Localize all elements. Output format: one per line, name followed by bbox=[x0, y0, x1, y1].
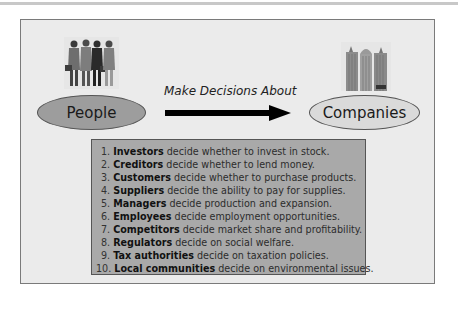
companies-label: Companies bbox=[323, 104, 407, 122]
list-item: 5. Managers decide production and expans… bbox=[101, 197, 365, 210]
list-item: 7. Competitors decide market share and p… bbox=[101, 223, 365, 236]
connector-label: Make Decisions About bbox=[164, 84, 297, 98]
top-rule bbox=[0, 2, 458, 5]
office-buildings-icon bbox=[341, 42, 391, 91]
list-item: 6. Employees decide employment opportuni… bbox=[101, 210, 365, 223]
right-arrow-icon bbox=[165, 105, 291, 121]
list-item: 8. Regulators decide on social welfare. bbox=[101, 236, 365, 249]
decisions-list: 1. Investors decide whether to invest in… bbox=[91, 139, 366, 275]
list-item: 9. Tax authorities decide on taxation po… bbox=[101, 249, 365, 262]
people-label: People bbox=[67, 104, 117, 122]
list-item: 10. Local communities decide on environm… bbox=[96, 262, 365, 275]
companies-node: Companies bbox=[309, 95, 420, 130]
list-item: 2. Creditors decide whether to lend mone… bbox=[101, 158, 365, 171]
people-node: People bbox=[37, 95, 146, 130]
group-of-businesspeople-icon bbox=[64, 37, 119, 89]
list-item: 4. Suppliers decide the ability to pay f… bbox=[101, 184, 365, 197]
list-item: 1. Investors decide whether to invest in… bbox=[101, 145, 365, 158]
list-item: 3. Customers decide whether to purchase … bbox=[101, 171, 365, 184]
